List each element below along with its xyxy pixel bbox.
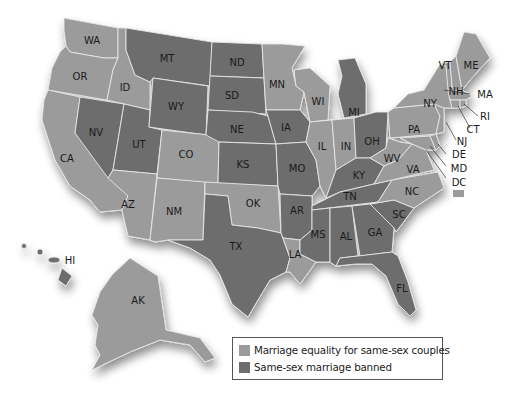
label-ut: UT xyxy=(132,139,146,150)
label-wy: WY xyxy=(168,101,185,112)
label-ga: GA xyxy=(368,227,383,238)
label-ms: MS xyxy=(311,229,326,240)
label-de: DE xyxy=(452,149,466,160)
label-or: OR xyxy=(73,71,88,82)
label-mi: MI xyxy=(348,107,360,118)
label-ak: AK xyxy=(131,295,145,306)
label-az: AZ xyxy=(121,199,135,210)
label-md: MD xyxy=(451,163,468,174)
label-ma: MA xyxy=(477,89,493,100)
label-oh: OH xyxy=(364,136,379,147)
label-id: ID xyxy=(120,82,131,93)
label-ok: OK xyxy=(246,198,261,209)
label-tn: TN xyxy=(342,191,357,202)
label-co: CO xyxy=(179,149,194,160)
label-mt: MT xyxy=(160,53,176,64)
legend-item-equality: Marriage equality for same-sex couples xyxy=(239,342,442,358)
label-ks: KS xyxy=(237,159,250,170)
label-me: ME xyxy=(464,60,479,71)
label-va: VA xyxy=(406,164,419,175)
label-nc: NC xyxy=(405,186,419,197)
label-ct: CT xyxy=(466,124,480,135)
label-nh: NH xyxy=(449,86,464,97)
label-wa: WA xyxy=(84,35,100,46)
label-fl: FL xyxy=(396,283,408,294)
label-ri: RI xyxy=(480,111,490,122)
us-marriage-map: WA OR CA ID NV UT AZ MT WY CO NM ND SD N… xyxy=(0,0,505,393)
label-nj: NJ xyxy=(457,136,467,147)
label-wi: WI xyxy=(312,96,325,107)
alaska-hawaii xyxy=(22,244,216,371)
label-mn: MN xyxy=(269,79,285,90)
state-ri[interactable] xyxy=(460,100,466,108)
label-dc: DC xyxy=(452,177,467,188)
label-pa: PA xyxy=(408,124,420,135)
label-ne: NE xyxy=(230,124,244,135)
legend-item-banned: Same-sex marriage banned xyxy=(239,359,442,375)
legend-label-equality: Marriage equality for same-sex couples xyxy=(254,344,450,356)
label-in: IN xyxy=(341,141,351,152)
state-ak[interactable] xyxy=(92,258,215,370)
label-ky: KY xyxy=(353,170,366,181)
label-la: LA xyxy=(289,249,302,260)
state-ar[interactable] xyxy=(280,194,312,240)
label-ia: IA xyxy=(281,122,291,133)
label-wv: WV xyxy=(384,153,401,164)
dc-swatch xyxy=(453,190,464,197)
label-vt: VT xyxy=(439,60,453,71)
label-sc: SC xyxy=(392,209,405,220)
legend-label-banned: Same-sex marriage banned xyxy=(254,361,392,373)
label-hi: HI xyxy=(65,255,75,266)
label-al: AL xyxy=(340,231,353,242)
label-sd: SD xyxy=(225,90,239,101)
legend: Marriage equality for same-sex couples S… xyxy=(232,337,443,380)
equality-swatch xyxy=(239,345,250,356)
label-nm: NM xyxy=(166,206,182,217)
label-ca: CA xyxy=(60,153,74,164)
label-mo: MO xyxy=(289,163,306,174)
label-il: IL xyxy=(318,141,327,152)
label-ny: NY xyxy=(423,98,437,109)
label-nd: ND xyxy=(229,57,244,68)
label-tx: TX xyxy=(229,241,243,252)
label-nv: NV xyxy=(89,127,103,138)
contiguous-us xyxy=(42,18,490,317)
banned-swatch xyxy=(239,362,250,373)
label-ar: AR xyxy=(290,205,304,216)
